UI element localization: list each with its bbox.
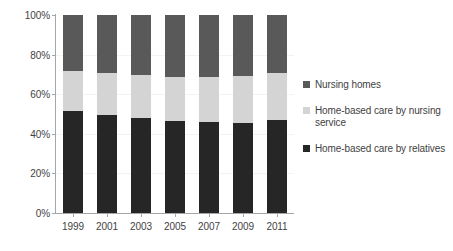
bar-group[interactable] xyxy=(267,15,287,213)
x-tick-mark xyxy=(141,213,142,217)
bar-segment[interactable] xyxy=(131,15,151,75)
x-tick-mark xyxy=(209,213,210,217)
legend-label: Home-based care by nursing service xyxy=(315,105,449,129)
x-tick-mark xyxy=(73,213,74,217)
x-tick-label: 2005 xyxy=(164,221,186,232)
legend-swatch-icon xyxy=(303,107,310,114)
x-tick-label: 1999 xyxy=(62,221,84,232)
bar-segment[interactable] xyxy=(131,75,151,118)
bar-segment[interactable] xyxy=(97,15,117,73)
bar-group[interactable] xyxy=(233,15,253,213)
y-tick-mark xyxy=(52,94,56,95)
y-tick-label: 0% xyxy=(36,208,50,219)
bar-segment[interactable] xyxy=(233,123,253,213)
x-tick-label: 2001 xyxy=(96,221,118,232)
legend-item[interactable]: Nursing homes xyxy=(303,79,449,91)
x-tick-mark xyxy=(175,213,176,217)
x-tick-mark xyxy=(107,213,108,217)
legend-label: Home-based care by relatives xyxy=(315,143,449,155)
x-tick-mark xyxy=(277,213,278,217)
bar-segment[interactable] xyxy=(165,15,185,77)
y-tick-mark xyxy=(52,15,56,16)
chart-legend: Nursing homesHome-based care by nursing … xyxy=(303,79,449,169)
bar-segment[interactable] xyxy=(199,77,219,122)
legend-swatch-icon xyxy=(303,145,310,152)
bar-segment[interactable] xyxy=(97,115,117,213)
y-tick-label: 60% xyxy=(30,89,50,100)
bar-segment[interactable] xyxy=(233,15,253,76)
y-tick-label: 80% xyxy=(30,49,50,60)
y-tick-mark xyxy=(52,213,56,214)
x-tick-label: 2011 xyxy=(266,221,287,232)
y-tick-mark xyxy=(52,173,56,174)
y-tick-label: 20% xyxy=(30,168,50,179)
bar-group[interactable] xyxy=(97,15,117,213)
x-tick-label: 2007 xyxy=(198,221,220,232)
bar-segment[interactable] xyxy=(63,111,83,213)
legend-item[interactable]: Home-based care by relatives xyxy=(303,143,449,155)
bar-segment[interactable] xyxy=(131,118,151,213)
bar-group[interactable] xyxy=(131,15,151,213)
bar-segment[interactable] xyxy=(233,76,253,123)
plot-area: 0%20%40%60%80%100% xyxy=(56,15,294,213)
y-tick-label: 100% xyxy=(25,10,50,21)
bar-group[interactable] xyxy=(199,15,219,213)
bar-segment[interactable] xyxy=(199,15,219,77)
bar-segment[interactable] xyxy=(267,15,287,73)
stacked-bar-chart: 0%20%40%60%80%100% Nursing homesHome-bas… xyxy=(0,0,453,251)
bar-segment[interactable] xyxy=(165,121,185,213)
x-tick-label: 2003 xyxy=(130,221,152,232)
y-tick-label: 40% xyxy=(30,128,50,139)
bar-segment[interactable] xyxy=(199,122,219,213)
y-tick-mark xyxy=(52,55,56,56)
legend-item[interactable]: Home-based care by nursing service xyxy=(303,105,449,129)
bar-segment[interactable] xyxy=(267,73,287,120)
x-tick-label: 2009 xyxy=(232,221,254,232)
bar-group[interactable] xyxy=(63,15,83,213)
bar-segment[interactable] xyxy=(165,77,185,122)
bar-segment[interactable] xyxy=(97,73,117,115)
legend-label: Nursing homes xyxy=(315,79,449,91)
x-tick-mark xyxy=(243,213,244,217)
bar-segment[interactable] xyxy=(63,71,83,112)
bar-segment[interactable] xyxy=(267,120,287,213)
y-tick-mark xyxy=(52,134,56,135)
bar-segment[interactable] xyxy=(63,15,83,71)
bar-group[interactable] xyxy=(165,15,185,213)
legend-swatch-icon xyxy=(303,81,310,88)
